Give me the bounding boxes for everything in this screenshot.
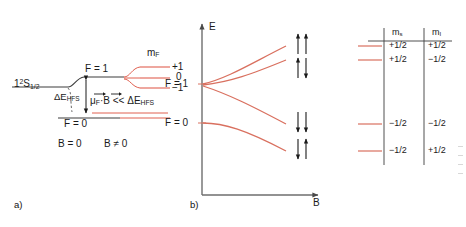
table-header-ms: ms: [392, 28, 403, 37]
condition-energy-symbol: E: [134, 95, 141, 106]
fanout-mf-plus1: [124, 67, 140, 77]
panel-b-level-label-f1: F = 1: [165, 79, 188, 89]
edge-mark: [458, 155, 463, 156]
table-row-1-mi: +1/2: [428, 41, 446, 50]
page-edge-marks: [456, 138, 464, 210]
table-header-mi-m: m: [432, 27, 440, 37]
edge-mark: [458, 173, 463, 174]
field-axis-label: B: [313, 198, 320, 208]
level-label-f1: F = 1: [85, 64, 108, 74]
term-symbol: 12S1/2: [14, 79, 39, 91]
table-row-4-ms: −1/2: [389, 146, 407, 155]
table-row-3-mi: −1/2: [428, 119, 446, 128]
weak-field-condition: μF·B << ΔEHFS: [90, 96, 154, 107]
table-row-2-ms: +1/2: [389, 55, 407, 64]
table-row-3-ms: −1/2: [389, 119, 407, 128]
table-row-4-mi: +1/2: [428, 146, 446, 155]
fanout-mf-minus1: [124, 79, 140, 88]
table-header-ms-subscript: s: [400, 30, 403, 37]
spin-arrow-pair-row-1: [298, 34, 306, 54]
mf-column-header: mF: [147, 48, 160, 59]
curve-ms-minus-mi-plus: [203, 123, 286, 151]
curve-ms-minus-mi-minus: [203, 86, 286, 124]
energy-axis-label: E: [209, 22, 216, 32]
level-connector-f1: [68, 77, 84, 87]
table-header-mi-subscript: I: [440, 30, 442, 37]
table-row-1-ms: +1/2: [389, 41, 407, 50]
condition-energy-subscript: HFS: [141, 99, 155, 106]
field-label-zero: B = 0: [58, 139, 82, 149]
spin-arrow-pair-row-3: [298, 112, 306, 132]
mf-header-subscript: F: [155, 51, 159, 58]
curve-ms-plus-mi-minus: [203, 60, 286, 85]
spin-arrow-pair-row-2: [298, 58, 306, 78]
condition-b: B: [103, 95, 110, 106]
table-header-ms-m: m: [392, 27, 400, 37]
condition-relation: <<: [113, 95, 125, 106]
hfs-splitting-label: ΔEHFS: [54, 92, 80, 103]
level-label-f0: F = 0: [64, 119, 87, 129]
condition-delta: Δ: [127, 95, 134, 106]
panel-b-letter: b): [190, 200, 198, 210]
term-symbol-orbital: S: [23, 78, 30, 89]
edge-mark: [458, 164, 463, 165]
panel-b-level-label-f0: F = 0: [165, 118, 188, 128]
panel-a-letter: a): [14, 200, 22, 210]
table-row-2-mi: −1/2: [428, 55, 446, 64]
table-header-mi: mI: [432, 28, 441, 37]
spin-arrow-pair-row-4: [298, 139, 306, 159]
figure-root: 12S1/2 F = 1 F = 0 ΔEHFS μF·B << ΔEHFS m…: [0, 0, 466, 227]
term-symbol-j: 1/2: [30, 83, 39, 90]
edge-mark: [458, 146, 463, 147]
hfs-subscript: HFS: [67, 95, 80, 102]
field-label-nonzero: B ≠ 0: [104, 139, 127, 149]
